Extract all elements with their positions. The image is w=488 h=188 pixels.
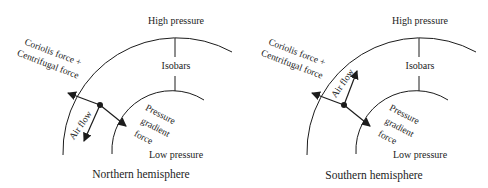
high-pressure-label: High pressure [392,15,448,26]
northern-hemisphere-panel: High pressure Isobars Low pressure Corio… [0,0,244,188]
isobars-label: Isobars [162,60,191,71]
panel-caption: Northern hemisphere [92,168,189,181]
pressure-gradient-wind-figure: High pressure Isobars Low pressure Corio… [0,0,488,188]
pressure-gradient-arrow [344,105,370,126]
northern-hemisphere-diagram: High pressure Isobars Low pressure Corio… [0,0,244,188]
high-pressure-label: High pressure [148,15,204,26]
isobars-label: Isobars [406,60,435,71]
low-pressure-label: Low pressure [393,149,448,160]
southern-hemisphere-panel: High pressure Isobars Low pressure Corio… [244,0,488,188]
air-flow-label: Air flow [67,109,94,141]
coriolis-centrifugal-arrow [68,93,100,105]
pressure-gradient-label-line3: force [376,128,398,146]
southern-hemisphere-diagram: High pressure Isobars Low pressure Corio… [244,0,488,188]
pressure-gradient-arrow [100,105,126,126]
panel-caption: Southern hemisphere [325,169,422,182]
pressure-gradient-label-line3: force [132,128,154,146]
low-pressure-label: Low pressure [149,149,204,160]
